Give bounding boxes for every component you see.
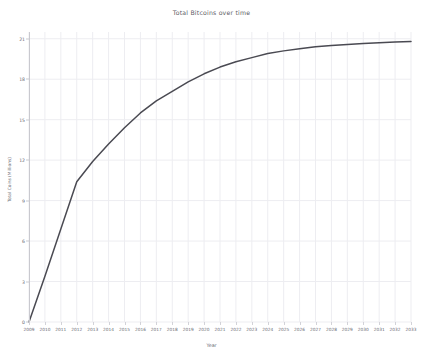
x-tick-label: 2012 [71, 327, 82, 332]
x-tick-label: 2017 [151, 327, 162, 332]
x-tick-mark [29, 322, 30, 325]
x-tick-mark [379, 322, 380, 325]
x-tick-mark [172, 322, 173, 325]
data-series-line [29, 32, 411, 322]
x-tick-label: 2027 [310, 327, 321, 332]
y-tick-mark [26, 281, 29, 282]
plot-area [29, 32, 411, 322]
x-tick-label: 2011 [55, 327, 66, 332]
x-tick-label: 2014 [103, 327, 114, 332]
x-tick-mark [140, 322, 141, 325]
x-tick-mark [188, 322, 189, 325]
x-tick-label: 2025 [278, 327, 289, 332]
x-tick-label: 2019 [183, 327, 194, 332]
y-tick-label: 21 [19, 36, 25, 41]
x-tick-mark [204, 322, 205, 325]
y-tick-label: 12 [19, 158, 25, 163]
x-tick-label: 2024 [262, 327, 273, 332]
x-tick-label: 2032 [390, 327, 401, 332]
x-tick-label: 2018 [167, 327, 178, 332]
x-tick-label: 2023 [246, 327, 257, 332]
x-tick-mark [411, 322, 412, 325]
y-tick-label: 3 [22, 279, 25, 284]
y-axis-tick-labels: 036912151821 [0, 0, 25, 359]
x-tick-mark [268, 322, 269, 325]
x-tick-mark [220, 322, 221, 325]
x-tick-mark [61, 322, 62, 325]
x-tick-mark [347, 322, 348, 325]
y-tick-mark [26, 241, 29, 242]
x-tick-label: 2020 [199, 327, 210, 332]
y-tick-mark [26, 119, 29, 120]
x-axis-title: Year [0, 343, 423, 348]
x-tick-mark [316, 322, 317, 325]
x-tick-mark [45, 322, 46, 325]
y-axis-title: Total Coins (Millions) [7, 140, 12, 220]
chart-figure: Total Bitcoins over time 036912151821 To… [0, 0, 423, 359]
x-tick-label: 2028 [326, 327, 337, 332]
chart-title: Total Bitcoins over time [0, 9, 423, 16]
y-axis-line [29, 32, 30, 322]
y-tick-mark [26, 200, 29, 201]
y-tick-label: 9 [22, 198, 25, 203]
y-tick-mark [26, 79, 29, 80]
x-tick-mark [93, 322, 94, 325]
x-tick-label: 2026 [294, 327, 305, 332]
y-tick-mark [26, 38, 29, 39]
y-tick-label: 6 [22, 239, 25, 244]
x-tick-label: 2029 [342, 327, 353, 332]
x-tick-label: 2015 [119, 327, 130, 332]
x-tick-mark [77, 322, 78, 325]
x-tick-mark [331, 322, 332, 325]
x-tick-label: 2021 [215, 327, 226, 332]
x-tick-mark [252, 322, 253, 325]
x-tick-label: 2022 [230, 327, 241, 332]
x-tick-label: 2013 [87, 327, 98, 332]
x-tick-label: 2016 [135, 327, 146, 332]
x-tick-mark [284, 322, 285, 325]
x-tick-label: 2009 [24, 327, 35, 332]
x-tick-mark [236, 322, 237, 325]
x-tick-label: 2031 [374, 327, 385, 332]
y-tick-label: 18 [19, 77, 25, 82]
x-tick-label: 2030 [358, 327, 369, 332]
x-tick-mark [395, 322, 396, 325]
x-tick-label: 2010 [39, 327, 50, 332]
x-tick-mark [300, 322, 301, 325]
x-tick-mark [109, 322, 110, 325]
y-tick-label: 15 [19, 117, 25, 122]
y-tick-label: 0 [22, 320, 25, 325]
x-axis-tick-labels: 2009201020112012201320142015201620172018… [0, 327, 423, 339]
y-tick-mark [26, 160, 29, 161]
x-tick-label: 2033 [406, 327, 417, 332]
x-tick-mark [156, 322, 157, 325]
x-tick-mark [125, 322, 126, 325]
x-tick-mark [363, 322, 364, 325]
